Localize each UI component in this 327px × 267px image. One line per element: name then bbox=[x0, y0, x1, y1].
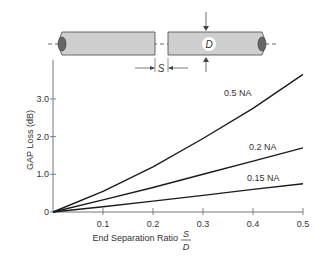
series-line bbox=[53, 184, 303, 212]
gap-loss-figure: D S 0.10.20.30.40.501.02.03.0GAP Loss (d… bbox=[0, 0, 327, 267]
y-tick-label: 2.0 bbox=[36, 132, 49, 142]
series-label: 0.2 NA bbox=[249, 142, 277, 152]
chart-series: 0.5 NA0.2 NA0.15 NA bbox=[53, 74, 303, 212]
y-tick-label: 3.0 bbox=[36, 94, 49, 104]
y-axis-label: GAP Loss (dB) bbox=[25, 110, 35, 170]
y-tick-label: 1.0 bbox=[36, 169, 49, 179]
diameter-label: D bbox=[205, 39, 212, 50]
x-tick-label: 0.5 bbox=[297, 219, 310, 229]
chart-axes: 0.10.20.30.40.501.02.03.0GAP Loss (dB)En… bbox=[25, 60, 309, 252]
series-label: 0.15 NA bbox=[247, 173, 280, 183]
x-tick-label: 0.3 bbox=[197, 219, 210, 229]
x-tick-label: 0.4 bbox=[247, 219, 260, 229]
x-tick-label: 0.1 bbox=[97, 219, 110, 229]
fiber-gap-diagram: D S bbox=[48, 12, 278, 74]
x-tick-label: 0.2 bbox=[147, 219, 160, 229]
x-axis-label: End Separation Ratio bbox=[92, 233, 178, 243]
x-label-denominator: D bbox=[183, 242, 190, 252]
series-label: 0.5 NA bbox=[224, 88, 252, 98]
x-label-numerator: S bbox=[183, 229, 189, 239]
y-tick-label: 0 bbox=[44, 207, 49, 217]
gap-label: S bbox=[158, 63, 165, 74]
